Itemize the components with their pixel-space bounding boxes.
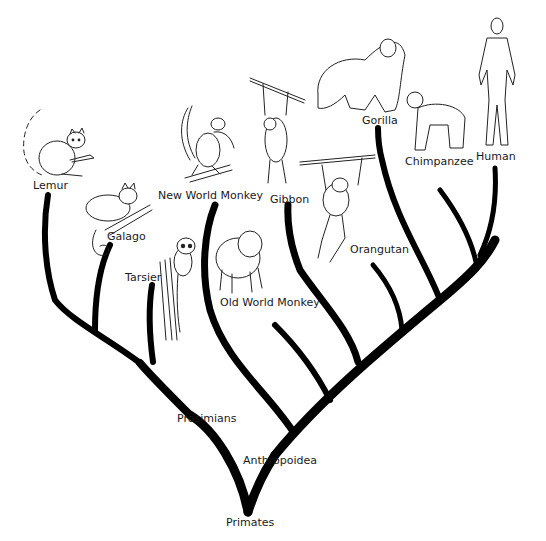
branch-prosimian-trunk <box>140 363 190 415</box>
galago-illustration <box>86 183 152 255</box>
label-galago: Galago <box>107 230 146 243</box>
label-tarsier: Tarsier <box>124 271 162 284</box>
branch-galago-stem <box>95 245 110 330</box>
gibbon-illustration <box>250 78 305 183</box>
branch-tarsier <box>150 285 153 362</box>
label-lemur: Lemur <box>33 179 68 192</box>
human-illustration <box>479 18 515 145</box>
old-world-monkey-illustration <box>216 231 262 293</box>
label-anthropoidea: Anthropoidea <box>243 454 317 467</box>
tree-labels: Lemur Galago Tarsier New World Monkey Gi… <box>33 114 516 529</box>
branch-gorilla <box>378 128 440 300</box>
new-world-monkey-illustration <box>182 106 235 182</box>
label-new-world-monkey: New World Monkey <box>158 189 263 202</box>
label-orangutan: Orangutan <box>350 243 409 256</box>
label-gorilla: Gorilla <box>362 114 398 127</box>
label-chimpanzee: Chimpanzee <box>405 155 474 168</box>
branch-anthropoid-trunk <box>275 240 495 455</box>
label-primates: Primates <box>226 516 275 529</box>
branch-chimpanzee <box>440 190 476 262</box>
gorilla-illustration <box>318 39 405 112</box>
tarsier-illustration <box>160 238 195 340</box>
label-gibbon: Gibbon <box>270 193 309 206</box>
branch-orangutan <box>373 265 402 330</box>
lemur-illustration <box>24 110 94 176</box>
primate-phylogeny-diagram: Lemur Galago Tarsier New World Monkey Gi… <box>0 0 546 541</box>
branch-root-prosimians <box>190 415 248 512</box>
branch-old-world-monkey <box>275 325 330 400</box>
label-prosimians: Prosimians <box>177 412 237 425</box>
label-human: Human <box>476 150 516 163</box>
branch-gibbon <box>288 205 358 362</box>
tree-canvas: Lemur Galago Tarsier New World Monkey Gi… <box>0 0 546 541</box>
label-old-world-monkey: Old World Monkey <box>220 296 320 309</box>
chimpanzee-illustration <box>407 92 465 150</box>
